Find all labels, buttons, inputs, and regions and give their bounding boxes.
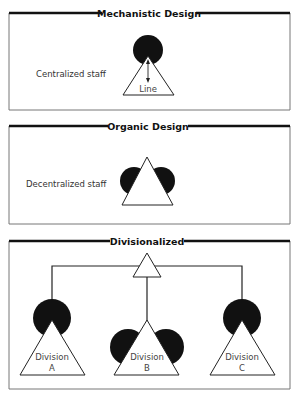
division-letter: B xyxy=(144,363,150,373)
panel-title: Organic Design xyxy=(107,121,189,132)
division-b: Division B xyxy=(110,320,184,375)
panel-mechanistic: Mechanistic Design Centralized staff Lin… xyxy=(9,8,290,110)
panel-title: Divisionalized xyxy=(110,236,185,247)
panel-divisionalized: Divisionalized Division A Division B Div… xyxy=(9,236,290,389)
staff-label: Centralized staff xyxy=(36,69,107,79)
line-label: Line xyxy=(139,84,157,94)
division-a: Division A xyxy=(20,299,85,375)
panel-organic: Organic Design Decentralized staff xyxy=(9,121,290,224)
panel-title: Mechanistic Design xyxy=(97,8,201,19)
organization-design-diagram: Mechanistic Design Centralized staff Lin… xyxy=(0,0,298,395)
division-c: Division C xyxy=(210,299,275,375)
headquarters-triangle xyxy=(133,253,161,277)
division-label: Division xyxy=(225,352,259,362)
division-letter: C xyxy=(239,363,245,373)
division-label: Division xyxy=(35,352,69,362)
division-letter: A xyxy=(49,363,55,373)
division-label: Division xyxy=(130,352,164,362)
staff-label: Decentralized staff xyxy=(26,179,108,189)
